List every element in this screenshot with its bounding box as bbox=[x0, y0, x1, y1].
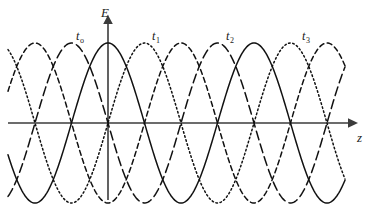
wave-figure: to t1 t2 t3 E z bbox=[0, 0, 379, 219]
curve-label-t1-sub: 1 bbox=[156, 36, 160, 45]
wave-plot-svg bbox=[0, 0, 379, 219]
curve-label-t0: to bbox=[76, 30, 84, 43]
z-axis-label: z bbox=[357, 131, 362, 144]
curve-label-t2-sub: 2 bbox=[230, 36, 234, 45]
z-axis-group bbox=[8, 118, 358, 128]
curve-label-t1: t1 bbox=[152, 30, 160, 43]
right-arrow-icon bbox=[348, 118, 358, 128]
curve-label-t0-sub: o bbox=[80, 36, 84, 45]
curve-label-t3-sub: 3 bbox=[306, 36, 310, 45]
curve-label-t2: t2 bbox=[226, 30, 234, 43]
curve-label-t3: t3 bbox=[302, 30, 310, 43]
e-axis-label: E bbox=[101, 6, 109, 19]
